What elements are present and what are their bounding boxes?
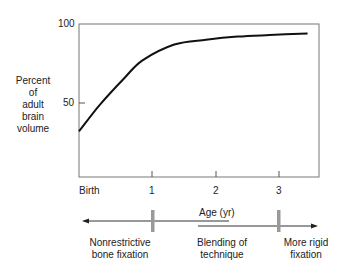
y-axis-label: Percent of adult brain volume	[10, 75, 56, 135]
middle-phase-line: technique	[190, 249, 254, 261]
right-phase-label: More rigid fixation	[276, 237, 336, 261]
y-axis-label-line: Percent	[10, 75, 56, 87]
right-phase-line: More rigid	[276, 237, 336, 249]
left-arrowhead-icon	[82, 219, 89, 224]
middle-phase-line: Blending of	[190, 237, 254, 249]
x-tick-label-1: 1	[149, 185, 155, 197]
marker-age-3	[277, 210, 281, 232]
left-phase-line: bone fixation	[84, 249, 156, 261]
y-tick-label-50: 50	[63, 97, 74, 109]
x-axis-label: Age (yr)	[199, 207, 235, 219]
y-tick-label-100: 100	[58, 18, 75, 30]
middle-phase-label: Blending of technique	[190, 237, 254, 261]
y-axis-label-line: brain	[10, 111, 56, 123]
x-tick-label-birth: Birth	[79, 185, 100, 197]
y-axis-label-line: adult	[10, 99, 56, 111]
plot-frame	[79, 24, 319, 177]
left-phase-label: Nonrestrictive bone fixation	[84, 237, 156, 261]
y-axis-label-line: volume	[10, 123, 56, 135]
x-tick-label-3: 3	[276, 185, 282, 197]
right-arrowhead-icon	[311, 224, 318, 229]
x-tick-label-2: 2	[213, 185, 219, 197]
left-phase-line: Nonrestrictive	[84, 237, 156, 249]
brain-volume-curve	[79, 34, 308, 132]
y-axis-label-line: of	[10, 87, 56, 99]
marker-age-1	[151, 210, 155, 232]
right-phase-line: fixation	[276, 249, 336, 261]
